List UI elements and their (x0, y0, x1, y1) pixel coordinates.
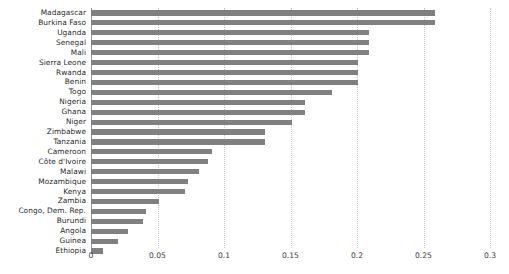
bar[interactable] (91, 199, 159, 204)
bar-row[interactable] (91, 28, 490, 38)
y-axis-label: Ghana (62, 107, 86, 117)
bar[interactable] (91, 70, 358, 75)
x-tick-label: 0.3 (484, 251, 496, 260)
y-axis-label: Sierra Leone (39, 58, 86, 68)
plot-area (91, 8, 490, 248)
bar-row[interactable] (91, 216, 490, 226)
bar[interactable] (91, 149, 212, 154)
bar[interactable] (91, 20, 435, 25)
bar-row[interactable] (91, 107, 490, 117)
bar[interactable] (91, 179, 188, 184)
y-axis-label: Côte d'Ivoire (39, 157, 86, 167)
bar-row[interactable] (91, 58, 490, 68)
bar[interactable] (91, 219, 143, 224)
y-axis-label: Zambia (58, 196, 86, 206)
bar-rows (91, 8, 490, 248)
y-axis-label: Niger (66, 117, 86, 127)
y-axis-label: Mozambique (38, 177, 86, 187)
y-axis-label: Kenya (63, 187, 86, 197)
bar-row[interactable] (91, 38, 490, 48)
bar[interactable] (91, 120, 292, 125)
bar[interactable] (91, 129, 265, 134)
bar[interactable] (91, 189, 185, 194)
x-tick-label: 0.05 (149, 251, 166, 260)
bar-row[interactable] (91, 177, 490, 187)
y-axis-label: Cameroon (48, 147, 86, 157)
bar-row[interactable] (91, 187, 490, 197)
bar-row[interactable] (91, 68, 490, 78)
bar-row[interactable] (91, 206, 490, 216)
bar-row[interactable] (91, 97, 490, 107)
y-axis-label: Madagascar (41, 8, 86, 18)
x-tick-label: 0 (89, 251, 94, 260)
bar-row[interactable] (91, 137, 490, 147)
gridline-0.3 (490, 8, 492, 248)
bar[interactable] (91, 100, 305, 105)
bar-row[interactable] (91, 147, 490, 157)
y-axis-label: Malawi (60, 167, 86, 177)
bar[interactable] (91, 30, 369, 35)
bar-row[interactable] (91, 167, 490, 177)
bar[interactable] (91, 139, 265, 144)
y-axis-category-labels: MadagascarBurkina FasoUgandaSenegalMaliS… (0, 8, 86, 248)
y-axis-label: Burkina Faso (38, 18, 86, 28)
y-axis-label: Togo (69, 87, 86, 97)
bar-row[interactable] (91, 48, 490, 58)
bar-row[interactable] (91, 77, 490, 87)
bar-row[interactable] (91, 18, 490, 28)
x-tick-label: 0.2 (351, 251, 363, 260)
bar-row[interactable] (91, 157, 490, 167)
bar[interactable] (91, 60, 358, 65)
bar[interactable] (91, 90, 332, 95)
x-tick-label: 0.1 (218, 251, 230, 260)
bar-row[interactable] (91, 117, 490, 127)
bar-row[interactable] (91, 8, 490, 18)
y-axis-label: Burundi (57, 216, 86, 226)
y-axis-label: Zimbabwe (47, 127, 86, 137)
bar[interactable] (91, 50, 369, 55)
x-axis-tick-labels: 00.050.10.150.20.250.3 (0, 251, 509, 267)
bar[interactable] (91, 209, 146, 214)
bar-row[interactable] (91, 127, 490, 137)
x-tick-label: 0.15 (282, 251, 299, 260)
y-axis-label: Congo, Dem. Rep. (18, 206, 86, 216)
bar-row[interactable] (91, 196, 490, 206)
bar-row[interactable] (91, 87, 490, 97)
bar-row[interactable] (91, 226, 490, 236)
bar[interactable] (91, 110, 305, 115)
y-axis-label: Rwanda (56, 68, 86, 78)
bar[interactable] (91, 40, 369, 45)
bar[interactable] (91, 169, 199, 174)
bar[interactable] (91, 10, 435, 15)
x-tick-label: 0.25 (415, 251, 432, 260)
y-axis-label: Angola (60, 226, 86, 236)
bar-row[interactable] (91, 236, 490, 246)
y-axis-label: Tanzania (53, 137, 86, 147)
y-axis-label: Benin (65, 77, 86, 87)
bar[interactable] (91, 239, 118, 244)
bar[interactable] (91, 80, 358, 85)
y-axis-label: Nigeria (59, 97, 86, 107)
bar[interactable] (91, 159, 208, 164)
y-axis-label: Uganda (57, 28, 86, 38)
y-axis-label: Guinea (59, 236, 86, 246)
bar[interactable] (91, 229, 128, 234)
y-axis-label: Mali (71, 48, 86, 58)
bar-chart: MadagascarBurkina FasoUgandaSenegalMaliS… (0, 0, 509, 274)
y-axis-label: Senegal (56, 38, 86, 48)
